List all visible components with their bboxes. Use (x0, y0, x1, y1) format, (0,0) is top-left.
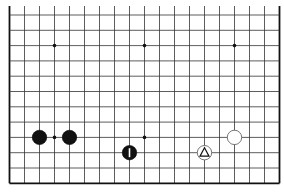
go-board[interactable] (0, 0, 284, 196)
stones-layer (32, 130, 241, 160)
star-point-icon (53, 136, 57, 140)
star-point-icon (143, 136, 147, 140)
black-stone[interactable] (122, 146, 136, 160)
star-point-icon (53, 44, 57, 48)
star-point-icon (233, 44, 237, 48)
white-stone[interactable] (197, 146, 211, 160)
black-stone-icon (32, 130, 46, 144)
board-grid (10, 6, 280, 183)
black-stone-icon (62, 130, 76, 144)
black-stone[interactable] (62, 130, 76, 144)
white-stone[interactable] (227, 130, 241, 144)
star-point-icon (143, 44, 147, 48)
white-stone-icon (227, 130, 241, 144)
black-stone[interactable] (32, 130, 46, 144)
